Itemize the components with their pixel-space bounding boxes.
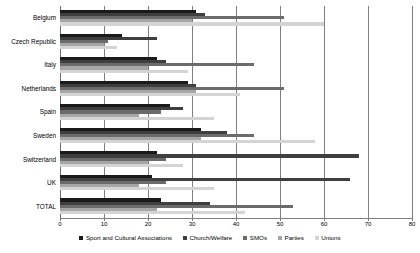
x-tick-label-80: 80 xyxy=(409,221,416,227)
legend-item[interactable]: Church/Welfare xyxy=(183,234,232,241)
legend-label: Church/Welfare xyxy=(189,234,232,241)
legend-label: Unions xyxy=(321,234,340,241)
x-tick-label-60: 60 xyxy=(321,221,328,227)
category-label-czech-republic: Czech Republic xyxy=(0,38,56,45)
bar xyxy=(60,117,214,120)
category-label-spain: Spain xyxy=(0,108,56,115)
bar xyxy=(60,46,117,49)
bar-group xyxy=(60,6,412,30)
bar xyxy=(60,70,188,73)
category-label-uk: UK xyxy=(0,179,56,186)
bar xyxy=(60,22,324,25)
x-tick-label-30: 30 xyxy=(189,221,196,227)
gridline-80 xyxy=(412,6,413,218)
category-label-total: TOTAL xyxy=(0,203,56,210)
legend-item[interactable]: SMOs xyxy=(243,234,267,241)
x-tick-label-10: 10 xyxy=(101,221,108,227)
legend-label: Parties xyxy=(285,234,304,241)
x-tick-label-50: 50 xyxy=(277,221,284,227)
grouped-bar-chart: BelgiumCzech RepublicItalyNetherlandsSpa… xyxy=(0,0,420,253)
legend-label: Sport and Cultural Associations xyxy=(86,234,172,241)
x-tick-label-20: 20 xyxy=(145,221,152,227)
bar-group xyxy=(60,100,412,124)
legend-label: SMOs xyxy=(250,234,267,241)
bar-group xyxy=(60,77,412,101)
bars-layer xyxy=(60,6,412,218)
x-tick-label-0: 0 xyxy=(58,221,61,227)
category-label-sweden: Sweden xyxy=(0,132,56,139)
legend-swatch-icon xyxy=(183,236,187,240)
bar xyxy=(60,164,183,167)
category-label-switzerland: Switzerland xyxy=(0,156,56,163)
legend-swatch-icon xyxy=(79,236,83,240)
legend-item[interactable]: Parties xyxy=(278,234,304,241)
bar xyxy=(60,187,214,190)
bar-group xyxy=(60,171,412,195)
x-tick-label-40: 40 xyxy=(233,221,240,227)
bar xyxy=(60,140,315,143)
bar xyxy=(60,93,240,96)
bar-group xyxy=(60,147,412,171)
bar-group xyxy=(60,124,412,148)
plot-area xyxy=(60,6,412,218)
legend-item[interactable]: Sport and Cultural Associations xyxy=(79,234,171,241)
category-axis-labels: BelgiumCzech RepublicItalyNetherlandsSpa… xyxy=(0,6,56,218)
legend-swatch-icon xyxy=(278,236,282,240)
bar-group xyxy=(60,194,412,218)
category-label-netherlands: Netherlands xyxy=(0,85,56,92)
bar-group xyxy=(60,30,412,54)
legend-swatch-icon xyxy=(315,236,319,240)
bar-group xyxy=(60,53,412,77)
legend-item[interactable]: Unions xyxy=(315,234,341,241)
category-label-italy: Italy xyxy=(0,61,56,68)
x-tick-label-70: 70 xyxy=(365,221,372,227)
bar xyxy=(60,211,245,214)
chart-legend: Sport and Cultural AssociationsChurch/We… xyxy=(0,234,420,241)
x-axis-ticks: 01020304050607080 xyxy=(60,218,412,230)
category-label-belgium: Belgium xyxy=(0,14,56,21)
legend-swatch-icon xyxy=(243,236,247,240)
